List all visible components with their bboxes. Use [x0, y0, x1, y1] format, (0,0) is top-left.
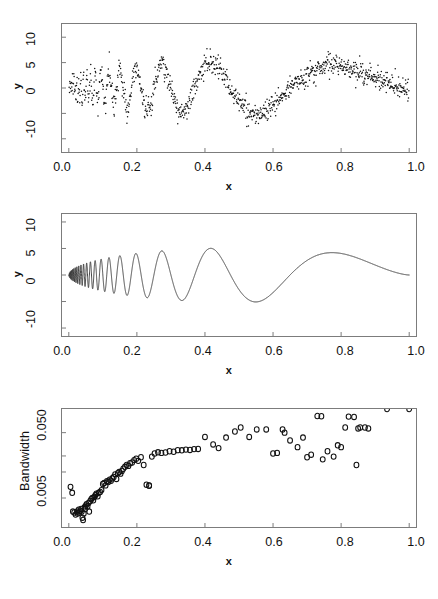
panel2-ytick-0: 0 — [24, 264, 38, 298]
panel1-xtick-4: 0.8 — [328, 160, 362, 174]
page-scan-artifact — [0, 588, 438, 599]
panel2-plot-area — [61, 213, 417, 337]
panel1-plot-area — [61, 23, 417, 153]
panel2-xtick-2: 0.4 — [186, 344, 220, 358]
panel1-xtick-1: 0.2 — [115, 160, 149, 174]
panel3-xtick-1: 0.2 — [115, 535, 149, 549]
panel3-xtick-2: 0.4 — [186, 535, 220, 549]
panel3-xtick-4: 0.8 — [328, 535, 362, 549]
panel2-x-axis-label: x — [222, 364, 236, 376]
panel3-ytick-050: 0.050 — [35, 396, 49, 454]
panel2-xtick-4: 0.8 — [328, 344, 362, 358]
panel3-scatter-svg — [62, 409, 416, 527]
panel1-scatter-svg — [62, 24, 416, 152]
panel2-xtick-1: 0.2 — [115, 344, 149, 358]
panel3-y-axis-label: Bandwidth — [18, 424, 32, 498]
panel2-y-axis-label: y — [11, 263, 23, 285]
panel-bandwidth: Bandwidth 0.050 0.005 0.0 0.2 0.4 0.6 0.… — [0, 386, 438, 599]
panel3-plot-area — [61, 408, 417, 528]
panel2-xtick-3: 0.6 — [257, 344, 291, 358]
panel3-xtick-0: 0.0 — [45, 535, 79, 549]
doppler-three-panel-figure: y 10 5 0 -10 0.0 0.2 0.4 0.6 0.8 1.0 x y… — [0, 0, 438, 599]
panel3-ytick-005: 0.005 — [35, 462, 49, 520]
panel-smooth-doppler: y 10 5 0 -10 0.0 0.2 0.4 0.6 0.8 1.0 x — [0, 196, 438, 386]
panel2-xtick-0: 0.0 — [45, 344, 79, 358]
panel3-x-axis-label: x — [222, 555, 236, 567]
panel-noisy-doppler: y 10 5 0 -10 0.0 0.2 0.4 0.6 0.8 1.0 x — [0, 0, 438, 196]
panel2-line-svg — [62, 214, 416, 336]
panel3-xtick-3: 0.6 — [257, 535, 291, 549]
panel1-y-axis-label: y — [11, 75, 23, 97]
panel1-xtick-0: 0.0 — [45, 160, 79, 174]
panel3-xtick-5: 1.0 — [399, 535, 433, 549]
panel2-xtick-5: 1.0 — [399, 344, 433, 358]
panel1-ytick-0: 0 — [24, 74, 38, 108]
panel1-xtick-2: 0.4 — [186, 160, 220, 174]
panel1-xtick-3: 0.6 — [257, 160, 291, 174]
panel1-xtick-5: 1.0 — [399, 160, 433, 174]
panel1-x-axis-label: x — [222, 180, 236, 192]
panel1-ytick-neg10: -10 — [24, 108, 38, 150]
panel2-ytick-neg10: -10 — [24, 298, 38, 340]
